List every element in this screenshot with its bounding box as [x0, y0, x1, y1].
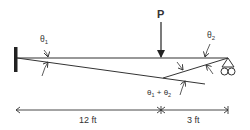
sum-angle-arrow-top [177, 62, 183, 70]
theta1-label: θ1 [40, 34, 49, 45]
dimension-right-label: 3 ft [187, 115, 200, 125]
tangent-line-right [163, 58, 228, 78]
load-label: P [157, 8, 164, 20]
theta2-arrow-bottom [206, 65, 213, 74]
dimension-line [16, 106, 228, 114]
beam-diagram: P θ1 θ2 θ1 + θ2 12 ft 3 ft [0, 0, 250, 130]
roller-support [221, 58, 235, 75]
theta1-arrow-bottom [42, 62, 48, 76]
theta2-label: θ2 [207, 30, 216, 41]
dimension-left-label: 12 ft [79, 115, 97, 125]
tangent-line-left [17, 58, 205, 84]
fixed-support-wall [14, 47, 18, 72]
sum-angle-label: θ1 + θ2 [147, 88, 171, 98]
theta2-arrow-top [205, 44, 210, 57]
sum-angle-arrow-bottom [180, 81, 185, 95]
theta1-arrow-top [44, 50, 48, 57]
